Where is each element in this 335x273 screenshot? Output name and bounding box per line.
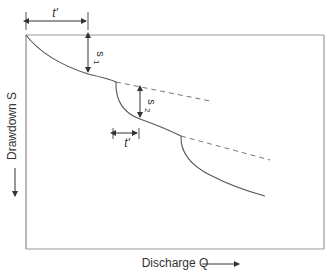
drawdown-curve-3 — [181, 136, 265, 196]
x-axis-label-group: Discharge Q — [142, 256, 239, 270]
y-axis-label: Drawdown S — [5, 92, 19, 160]
s1-dimension: s 1 — [88, 37, 107, 72]
t-prime-mid-label: t' — [124, 136, 130, 150]
s2-dimension: s 2 — [140, 90, 158, 117]
dashed-extension-1 — [116, 82, 210, 101]
drawdown-curve-1 — [26, 35, 116, 82]
drawdown-discharge-diagram: t' s 1 s 2 t' Drawdown S Discharge Q — [0, 0, 335, 273]
y-axis-label-group: Drawdown S — [5, 92, 19, 196]
s1-subscript: 1 — [92, 60, 101, 65]
s1-label: s — [95, 51, 107, 57]
x-axis-label: Discharge Q — [142, 256, 209, 270]
s2-subscript: 2 — [143, 108, 152, 113]
t-prime-top-label: t' — [52, 6, 58, 20]
t-prime-mid-dimension: t' — [113, 128, 139, 150]
t-prime-top-dimension: t' — [26, 6, 88, 30]
dashed-extension-2 — [181, 136, 270, 160]
s2-label: s — [146, 99, 158, 105]
